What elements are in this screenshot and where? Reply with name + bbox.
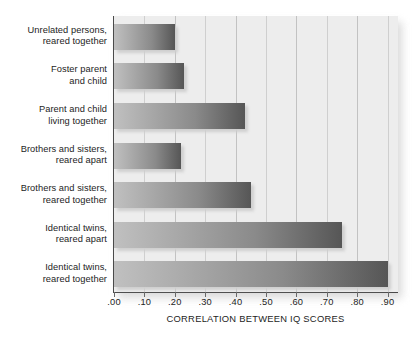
x-axis-tick-label: .80 — [340, 297, 374, 307]
y-axis-label-line: reared together — [0, 274, 107, 286]
y-axis-label: Identical twins,reared apart — [0, 223, 107, 246]
y-axis-label: Brothers and sisters,reared together — [0, 183, 107, 206]
gridline — [327, 16, 328, 293]
y-axis-label-line: Unrelated persons, — [0, 25, 107, 37]
gridline — [205, 16, 206, 293]
y-axis-label-line: and child — [0, 76, 107, 88]
bar — [114, 63, 184, 89]
x-axis-tick-label: .20 — [158, 297, 192, 307]
y-axis-label-line: Identical twins, — [0, 262, 107, 274]
x-axis-tick-label: .10 — [127, 297, 161, 307]
gridline — [236, 16, 237, 293]
y-axis-label: Identical twins,reared together — [0, 262, 107, 285]
y-axis-label-line: living together — [0, 116, 107, 128]
x-axis-line — [113, 292, 398, 293]
bar — [114, 261, 388, 287]
y-axis-label-line: reared together — [0, 195, 107, 207]
x-axis-title: CORRELATION BETWEEN IQ SCORES — [113, 313, 398, 324]
gridline — [357, 16, 358, 293]
y-axis-label-line: Identical twins, — [0, 223, 107, 235]
y-axis-label-line: Brothers and sisters, — [0, 144, 107, 156]
y-axis-label: Foster parentand child — [0, 64, 107, 87]
bar — [114, 24, 175, 50]
y-axis-label-line: reared together — [0, 36, 107, 48]
x-axis-tick-label: .50 — [249, 297, 283, 307]
gridline — [388, 16, 389, 293]
x-axis-tick-label: .70 — [310, 297, 344, 307]
gridline — [266, 16, 267, 293]
y-axis-label: Parent and childliving together — [0, 104, 107, 127]
x-axis-tick-label: .40 — [219, 297, 253, 307]
y-axis-label-line: Brothers and sisters, — [0, 183, 107, 195]
y-axis-label: Unrelated persons,reared together — [0, 25, 107, 48]
bar — [114, 103, 245, 129]
gridline — [296, 16, 297, 293]
y-axis-label-line: Foster parent — [0, 64, 107, 76]
bar — [114, 182, 251, 208]
y-axis-label-line: reared apart — [0, 234, 107, 246]
y-axis-label: Brothers and sisters,reared apart — [0, 144, 107, 167]
x-axis-tick-label: .60 — [279, 297, 313, 307]
bar — [114, 222, 342, 248]
y-axis-label-line: Parent and child — [0, 104, 107, 116]
x-axis-tick-label: .00 — [97, 297, 131, 307]
x-axis-tick-label: .90 — [371, 297, 405, 307]
x-axis-tick-label: .30 — [188, 297, 222, 307]
y-axis-label-line: reared apart — [0, 155, 107, 167]
bar — [114, 143, 181, 169]
chart-figure: Unrelated persons,reared togetherFoster … — [0, 0, 416, 350]
